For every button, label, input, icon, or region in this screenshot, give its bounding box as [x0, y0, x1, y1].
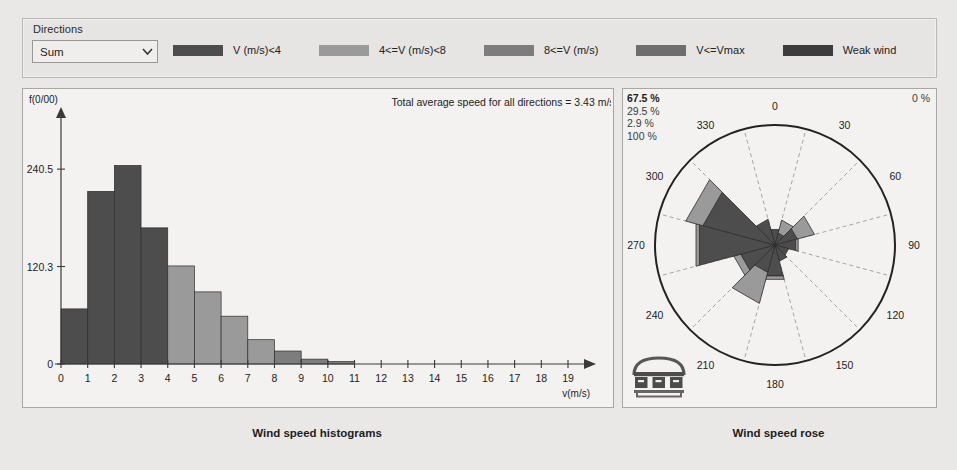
wind-speed-rose-panel: 67.5 %29.5 %2.9 %100 % 0 % 0306090120150… — [622, 88, 937, 408]
legend-swatch — [173, 45, 223, 56]
histogram-bar — [141, 228, 168, 364]
rose-direction-label: 150 — [836, 359, 854, 371]
x-tick-label: 4 — [165, 372, 171, 384]
histogram-bar — [114, 165, 141, 364]
legend-item: V<=Vmax — [636, 44, 744, 56]
histogram-caption: Wind speed histograms — [22, 427, 612, 439]
histogram-chart: Total average speed for all directions =… — [23, 89, 611, 405]
rose-percent-value: 67.5 % — [627, 92, 660, 105]
application-window: Directions Sum V (m/s)<44<=V (m/s)<88<=V… — [0, 0, 957, 470]
legend-swatch — [484, 45, 534, 56]
rose-direction-label: 180 — [766, 378, 784, 390]
legend-label: 8<=V (m/s) — [544, 44, 598, 56]
controls-and-legend-bar: Directions Sum V (m/s)<44<=V (m/s)<88<=V… — [22, 18, 937, 78]
x-tick-label: 16 — [482, 372, 494, 384]
rose-direction-label: 0 — [772, 100, 778, 112]
rose-direction-label: 210 — [697, 359, 715, 371]
x-tick-label: 8 — [272, 372, 278, 384]
histogram-bar — [194, 292, 221, 364]
rose-direction-label: 300 — [646, 170, 664, 182]
histogram-bar — [61, 309, 88, 364]
chevron-down-icon[interactable] — [137, 42, 157, 61]
x-tick-label: 3 — [138, 372, 144, 384]
rose-sector-band — [766, 276, 784, 279]
histogram-bar — [221, 316, 248, 364]
legend-swatch — [636, 45, 686, 56]
rose-percent-value: 29.5 % — [627, 105, 660, 118]
legend-swatch — [783, 45, 833, 56]
y-axis-ticks: 0120.3240.5 — [27, 163, 65, 370]
legend-label: 4<=V (m/s)<8 — [379, 44, 446, 56]
y-tick-label: 120.3 — [27, 261, 53, 273]
rose-percent-value: 2.9 % — [627, 117, 660, 130]
x-tick-label: 14 — [429, 372, 441, 384]
legend-item: V (m/s)<4 — [173, 44, 281, 56]
y-axis-label: f(0/00) — [29, 94, 58, 105]
mun-logo-icon — [630, 355, 688, 399]
x-tick-label: 5 — [191, 372, 197, 384]
histogram-bars — [61, 165, 355, 364]
histogram-bar — [248, 340, 275, 364]
directions-label: Directions — [33, 23, 83, 35]
histogram-bar — [168, 266, 195, 364]
rose-sector-band — [696, 224, 699, 266]
legend-swatch — [319, 45, 369, 56]
histogram-bar — [88, 191, 115, 364]
rose-percent-value: 100 % — [627, 130, 660, 143]
x-tick-label: 6 — [218, 372, 224, 384]
x-tick-label: 17 — [509, 372, 521, 384]
x-axis-label: v(m/s) — [562, 388, 590, 399]
legend-label: Weak wind — [843, 44, 897, 56]
y-tick-label: 240.5 — [27, 163, 53, 175]
x-tick-label: 0 — [58, 372, 64, 384]
rose-sector-band — [732, 265, 767, 303]
legend-label: V<=Vmax — [696, 44, 744, 56]
x-tick-label: 11 — [349, 372, 360, 384]
rose-sector-band — [796, 239, 799, 251]
x-tick-label: 1 — [85, 372, 91, 384]
rose-direction-label: 120 — [887, 309, 905, 321]
legend-item: Weak wind — [783, 44, 897, 56]
rose-percent-legend: 67.5 %29.5 %2.9 %100 % — [627, 92, 660, 142]
y-tick-label: 0 — [47, 358, 53, 370]
histogram-bar — [274, 351, 301, 364]
legend-item: 4<=V (m/s)<8 — [319, 44, 446, 56]
x-tick-label: 13 — [402, 372, 414, 384]
rose-direction-label: 270 — [627, 239, 645, 251]
rose-direction-label: 90 — [908, 239, 920, 251]
histogram-bar — [301, 359, 328, 364]
x-tick-label: 2 — [111, 372, 117, 384]
rose-sectors — [686, 180, 815, 304]
directions-select-value: Sum — [33, 46, 137, 58]
legend-item: 8<=V (m/s) — [484, 44, 598, 56]
rose-zero-label: 0 % — [912, 92, 930, 104]
rose-direction-label: 60 — [890, 170, 902, 182]
rose-caption: Wind speed rose — [622, 427, 935, 439]
x-tick-label: 7 — [245, 372, 251, 384]
x-tick-label: 18 — [535, 372, 547, 384]
directions-select[interactable]: Sum — [32, 40, 158, 63]
legend-label: V (m/s)<4 — [233, 44, 281, 56]
rose-direction-label: 330 — [697, 119, 715, 131]
x-tick-label: 12 — [375, 372, 387, 384]
x-tick-label: 15 — [455, 372, 467, 384]
x-tick-label: 10 — [322, 372, 334, 384]
x-tick-label: 19 — [562, 372, 574, 384]
rose-direction-label: 30 — [839, 119, 851, 131]
wind-speed-histogram-panel: Total average speed for all directions =… — [22, 88, 614, 408]
histogram-title: Total average speed for all directions =… — [391, 96, 611, 108]
x-tick-label: 9 — [298, 372, 304, 384]
legend: V (m/s)<44<=V (m/s)<88<=V (m/s)V<=VmaxWe… — [173, 39, 930, 61]
rose-direction-label: 240 — [646, 309, 664, 321]
